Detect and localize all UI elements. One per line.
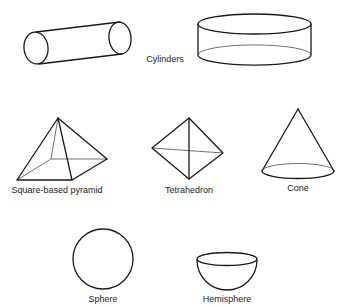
pyramid-label: Square-based pyramid bbox=[11, 185, 102, 196]
pyramid-shape bbox=[17, 118, 107, 180]
cylinder-flat-shape bbox=[198, 14, 311, 65]
sphere-label: Sphere bbox=[88, 294, 117, 305]
shapes-diagram bbox=[0, 0, 349, 307]
cone-shape bbox=[262, 109, 334, 179]
sphere-shape bbox=[73, 229, 133, 289]
hemisphere-label: Hemisphere bbox=[203, 294, 252, 305]
tetrahedron-shape bbox=[152, 118, 223, 179]
cone-label: Cone bbox=[287, 183, 309, 194]
hemisphere-shape bbox=[197, 253, 257, 291]
cylinders-label: Cylinders bbox=[146, 54, 184, 65]
cylinder-horizontal-shape bbox=[22, 21, 132, 65]
tetrahedron-label: Tetrahedron bbox=[165, 185, 213, 196]
